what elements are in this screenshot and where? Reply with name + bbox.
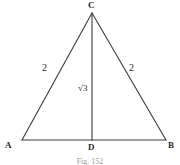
triangle-diagram-svg [0, 0, 180, 165]
edge-AC [22, 13, 92, 140]
vertex-label-d: D [88, 143, 95, 152]
altitude-length: √3 [78, 84, 87, 93]
side-length-right: 2 [129, 63, 134, 73]
figure-caption: Fig. 152 [0, 157, 180, 165]
vertex-label-a: A [5, 141, 12, 150]
geometry-figure: C A B D 2 2 √3 Fig. 152 [0, 0, 180, 165]
vertex-label-b: B [168, 141, 174, 150]
side-length-left: 2 [42, 63, 47, 73]
vertex-label-c: C [88, 1, 95, 10]
edge-CB [92, 13, 166, 140]
